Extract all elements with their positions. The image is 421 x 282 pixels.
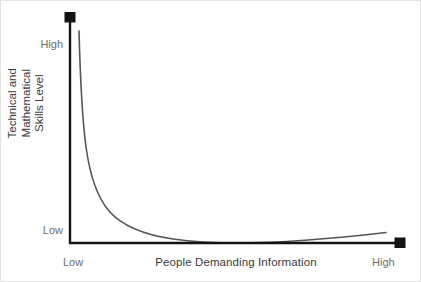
data-curve bbox=[79, 31, 386, 243]
x-axis-end-marker bbox=[395, 238, 406, 249]
y-axis-title-line-1: Technical and bbox=[6, 28, 20, 178]
x-axis-title: People Demanding Information bbox=[81, 256, 391, 268]
y-axis-tick-low: Low bbox=[19, 224, 63, 236]
y-axis-end-marker bbox=[65, 12, 76, 23]
y-axis-title-line-3: Skills Level bbox=[33, 28, 47, 178]
y-axis-title-line-2: Mathematical bbox=[19, 28, 33, 178]
chart-plot-area bbox=[1, 1, 421, 282]
chart-figure: High Low Low High People Demanding Infor… bbox=[0, 0, 421, 282]
y-axis-title: Technical and Mathematical Skills Level bbox=[6, 28, 47, 178]
